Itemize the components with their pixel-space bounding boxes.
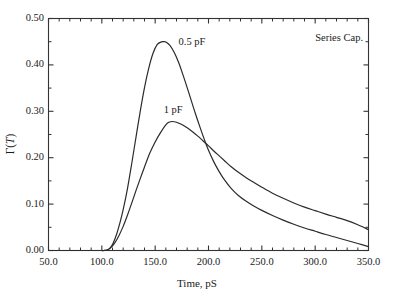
x-tick-label: 350.0	[344, 257, 394, 268]
axis-ticks	[49, 19, 369, 251]
axes-frame	[49, 19, 369, 251]
y-tick-label: 0.50	[12, 13, 44, 24]
x-axis-title: Time, pS	[0, 278, 394, 289]
x-tick-label: 250.0	[237, 257, 287, 268]
y-axis-title-text: Γ(T)	[4, 134, 16, 155]
y-tick-label: 0.40	[12, 59, 44, 70]
x-tick-label: 200.0	[184, 257, 234, 268]
annotation-0-5-pf: 0.5 pF	[179, 37, 206, 48]
annotation-1-pf: 1 pF	[164, 105, 183, 116]
x-tick-label: 50.0	[24, 257, 74, 268]
curve-1-pf	[49, 122, 369, 251]
x-tick-label: 100.0	[77, 257, 127, 268]
data-curves	[49, 42, 369, 251]
y-tick-label: 0.00	[12, 245, 44, 256]
chart-figure: 0.000.100.200.300.400.50 50.0100.0150.02…	[0, 0, 394, 298]
x-tick-label: 150.0	[130, 257, 180, 268]
y-axis-title: Γ(T)	[2, 118, 18, 170]
y-tick-label: 0.30	[12, 106, 44, 117]
x-tick-label: 300.0	[290, 257, 340, 268]
annotation-series-cap: Series Cap.	[315, 33, 363, 44]
y-tick-label: 0.10	[12, 199, 44, 210]
